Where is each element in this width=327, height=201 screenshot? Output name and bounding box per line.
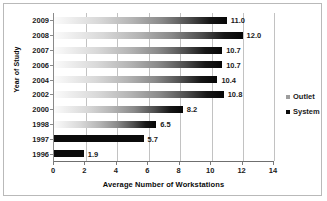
legend-item-outlet: Outlet — [286, 92, 320, 101]
chart-legend: Outlet System — [286, 92, 320, 122]
y-axis-tick-label: 1996 — [32, 149, 49, 158]
x-axis-tick-mark — [84, 162, 85, 165]
x-axis-title: Average Number of Workstations — [53, 180, 274, 189]
x-axis-tick-label: 8 — [177, 166, 181, 175]
x-axis-tick-mark — [53, 162, 54, 165]
bar-row: 19961.9 — [54, 150, 274, 157]
x-axis-tick-label: 2 — [82, 166, 86, 175]
bar — [54, 106, 183, 113]
bar-row: 19986.5 — [54, 121, 274, 128]
bar-value-label: 5.7 — [148, 134, 158, 143]
bar — [54, 61, 222, 68]
x-axis-tick-mark — [242, 162, 243, 165]
x-axis-tick-mark — [210, 162, 211, 165]
y-axis-tick-label: 1998 — [32, 120, 49, 129]
bar — [54, 91, 224, 98]
bar-row: 200210.8 — [54, 91, 274, 98]
bar-row: 19975.7 — [54, 135, 274, 142]
bar — [54, 121, 156, 128]
bar — [54, 17, 227, 24]
bar-value-label: 10.8 — [228, 90, 243, 99]
bar — [54, 150, 84, 157]
bar-row: 200610.7 — [54, 61, 274, 68]
bar-rows: 200911.0200812.0200710.7200610.7200410.4… — [54, 13, 274, 161]
x-axis-tick-label: 0 — [51, 166, 55, 175]
legend-swatch-icon — [286, 95, 290, 99]
x-axis-tick-mark — [179, 162, 180, 165]
x-axis-tick-label: 4 — [114, 166, 118, 175]
y-axis-tick-label: 2008 — [32, 31, 49, 40]
x-axis-tick-label: 14 — [269, 166, 277, 175]
legend-label: Outlet — [293, 92, 315, 101]
legend-item-system: System — [286, 107, 320, 116]
chart-frame: Year of Study 200911.0200812.0200710.720… — [3, 3, 322, 196]
x-axis-tick-mark — [116, 162, 117, 165]
x-axis-tick-label: 10 — [206, 166, 214, 175]
y-axis-tick-label: 2002 — [32, 90, 49, 99]
x-axis-ticks: 02468101214 — [53, 162, 274, 176]
bar-row: 200911.0 — [54, 17, 274, 24]
bar-row: 200710.7 — [54, 47, 274, 54]
legend-swatch-icon — [286, 110, 290, 114]
bar-value-label: 8.2 — [187, 105, 197, 114]
plot-area: 200911.0200812.0200710.7200610.7200410.4… — [53, 13, 274, 162]
y-axis-tick-label: 2007 — [32, 46, 49, 55]
legend-label: System — [293, 107, 320, 116]
x-axis-tick-label: 6 — [145, 166, 149, 175]
y-axis-tick-label: 2000 — [32, 105, 49, 114]
bar-row: 20008.2 — [54, 106, 274, 113]
bar — [54, 47, 222, 54]
bar-value-label: 12.0 — [247, 31, 262, 40]
bar-value-label: 1.9 — [88, 149, 98, 158]
chart-screenshot: Year of Study 200911.0200812.0200710.720… — [0, 0, 327, 201]
x-axis-tick-mark — [273, 162, 274, 165]
y-axis-tick-label: 2004 — [32, 75, 49, 84]
y-axis-title: Year of Study — [13, 30, 20, 110]
bar — [54, 32, 243, 39]
bar-value-label: 10.7 — [226, 46, 241, 55]
bar-value-label: 6.5 — [160, 120, 170, 129]
bar — [54, 76, 217, 83]
x-axis-tick-mark — [147, 162, 148, 165]
x-axis-tick-label: 12 — [237, 166, 245, 175]
bar-value-label: 10.7 — [226, 60, 241, 69]
bar-value-label: 10.4 — [221, 75, 236, 84]
bar — [54, 135, 144, 142]
gridline — [274, 13, 275, 161]
bar-value-label: 11.0 — [231, 16, 245, 25]
y-axis-tick-label: 2006 — [32, 60, 49, 69]
y-axis-tick-label: 1997 — [32, 134, 49, 143]
bar-row: 200812.0 — [54, 32, 274, 39]
bar-row: 200410.4 — [54, 76, 274, 83]
y-axis-tick-label: 2009 — [32, 16, 49, 25]
